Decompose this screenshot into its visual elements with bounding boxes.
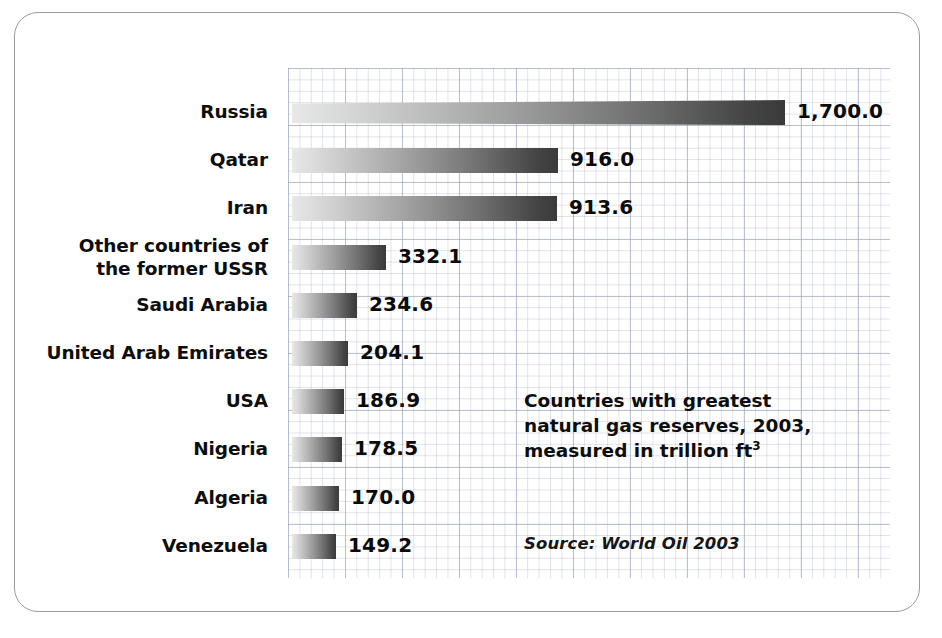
chart-title-annotation: Countries with greatest natural gas rese… bbox=[524, 388, 854, 463]
units-superscript: 3 bbox=[752, 439, 760, 453]
category-label-line: United Arab Emirates bbox=[0, 341, 268, 364]
category-label: Russia bbox=[0, 100, 268, 123]
category-label: Nigeria bbox=[0, 437, 268, 460]
bar bbox=[292, 437, 342, 462]
chart-title-line-3-text: measured in trillion ft bbox=[524, 440, 752, 461]
bar-value-label: 149.2 bbox=[348, 533, 412, 557]
bar-value-label: 186.9 bbox=[356, 388, 420, 412]
bar-row: Algeria170.0 bbox=[0, 474, 942, 522]
bar-row: United Arab Emirates204.1 bbox=[0, 329, 942, 377]
bar-row: Iran913.6 bbox=[0, 184, 942, 232]
category-label-line: Russia bbox=[0, 100, 268, 123]
category-label-line: Other countries of bbox=[0, 234, 268, 257]
bar-row: Other countries ofthe former USSR332.1 bbox=[0, 233, 942, 281]
bar-value-label: 916.0 bbox=[570, 147, 634, 171]
bar-value-label: 178.5 bbox=[354, 436, 418, 460]
chart-page: Russia1,700.0Qatar916.0Iran913.6Other co… bbox=[0, 0, 942, 638]
source-note: Source: World Oil 2003 bbox=[524, 534, 740, 553]
category-label-line: the former USSR bbox=[0, 257, 268, 280]
bar-row: Saudi Arabia234.6 bbox=[0, 281, 942, 329]
bar-row: Qatar916.0 bbox=[0, 136, 942, 184]
bar-value-label: 170.0 bbox=[351, 485, 415, 509]
category-label-line: Saudi Arabia bbox=[0, 293, 268, 316]
category-label-line: Qatar bbox=[0, 148, 268, 171]
chart-title-line-2: natural gas reserves, 2003, bbox=[524, 413, 854, 438]
category-label: Algeria bbox=[0, 486, 268, 509]
category-label-line: Iran bbox=[0, 196, 268, 219]
bar-value-label: 204.1 bbox=[360, 340, 424, 364]
bar-row: Venezuela149.2 bbox=[0, 522, 942, 570]
category-label-line: Algeria bbox=[0, 486, 268, 509]
category-label: Saudi Arabia bbox=[0, 293, 268, 316]
bar-value-label: 234.6 bbox=[369, 292, 433, 316]
chart-title-line-1: Countries with greatest bbox=[524, 388, 854, 413]
category-label: Qatar bbox=[0, 148, 268, 171]
bar-value-label: 332.1 bbox=[398, 244, 462, 268]
category-label: Iran bbox=[0, 196, 268, 219]
category-label-line: Venezuela bbox=[0, 534, 268, 557]
bar bbox=[292, 293, 357, 318]
category-label: USA bbox=[0, 389, 268, 412]
bar bbox=[292, 100, 785, 125]
bar-value-label: 1,700.0 bbox=[797, 99, 883, 123]
category-label: United Arab Emirates bbox=[0, 341, 268, 364]
bar-value-label: 913.6 bbox=[569, 195, 633, 219]
chart-title-line-3: measured in trillion ft3 bbox=[524, 438, 854, 463]
bar-chart-plot: Russia1,700.0Qatar916.0Iran913.6Other co… bbox=[0, 0, 942, 638]
category-label-line: USA bbox=[0, 389, 268, 412]
bar bbox=[292, 245, 386, 270]
category-label: Venezuela bbox=[0, 534, 268, 557]
bar bbox=[292, 534, 336, 559]
bar bbox=[292, 341, 348, 366]
bar bbox=[292, 389, 344, 414]
bar bbox=[292, 196, 557, 221]
category-label-line: Nigeria bbox=[0, 437, 268, 460]
bar bbox=[292, 486, 339, 511]
bar bbox=[292, 148, 558, 173]
bar-row: Russia1,700.0 bbox=[0, 88, 942, 136]
category-label: Other countries ofthe former USSR bbox=[0, 234, 268, 280]
